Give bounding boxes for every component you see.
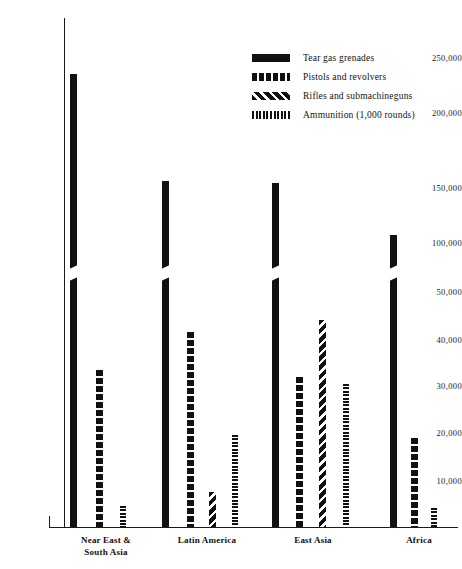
vertical-stripes-swatch-icon: [252, 111, 290, 119]
legend-item-rifles-and-submachineguns: Rifles and submachineguns: [252, 86, 415, 105]
legend-item-pistols-and-revolvers: Pistols and revolvers: [252, 67, 415, 86]
category-label-latin-america: Latin America: [152, 535, 262, 547]
legend-label: Ammunition (1,000 rounds): [303, 110, 415, 120]
category-label-east-asia: East Asia: [263, 535, 363, 547]
bar-dashed-blocks-group-2: [296, 377, 303, 527]
bar-vertical-stripes-group-0: [120, 506, 126, 527]
legend: Tear gas grenades Pistols and revolvers …: [252, 48, 415, 124]
solid-swatch-icon: [252, 54, 290, 62]
legend-label: Rifles and submachineguns: [303, 91, 412, 101]
category-label-line: Latin America: [152, 535, 262, 547]
category-label-africa: Africa: [378, 535, 460, 547]
bar-vertical-stripes-group-2: [343, 384, 349, 527]
category-label-line: Near East &: [62, 535, 150, 547]
bar-solid-group-2: [272, 183, 279, 527]
bar-dashed-blocks-group-1: [187, 332, 194, 527]
bar-dashed-blocks-group-0: [96, 370, 103, 527]
legend-item-tear-gas-grenades: Tear gas grenades: [252, 48, 415, 67]
legend-label: Pistols and revolvers: [303, 72, 386, 82]
category-label-near-east-south-asia: Near East & South Asia: [62, 535, 150, 558]
bar-diagonal-hatch-group-2: [319, 320, 326, 527]
dashed-blocks-swatch-icon: [252, 73, 290, 81]
bar-vertical-stripes-group-3: [431, 508, 437, 527]
bar-vertical-stripes-group-1: [232, 435, 238, 527]
bar-solid-group-1: [162, 181, 169, 527]
bar-chart: 250,000 200,000 150,000 100,000 50,000 4…: [0, 0, 462, 569]
bar-solid-group-0: [70, 74, 77, 527]
category-label-line: Africa: [378, 535, 460, 547]
bar-diagonal-hatch-group-1: [209, 492, 216, 527]
bar-dashed-blocks-group-3: [411, 438, 418, 527]
diagonal-hatch-swatch-icon: [252, 92, 290, 100]
category-label-line: East Asia: [263, 535, 363, 547]
bar-solid-group-3: [390, 235, 397, 527]
legend-label: Tear gas grenades: [303, 53, 374, 63]
category-label-line: South Asia: [62, 547, 150, 559]
legend-item-ammunition: Ammunition (1,000 rounds): [252, 105, 415, 124]
